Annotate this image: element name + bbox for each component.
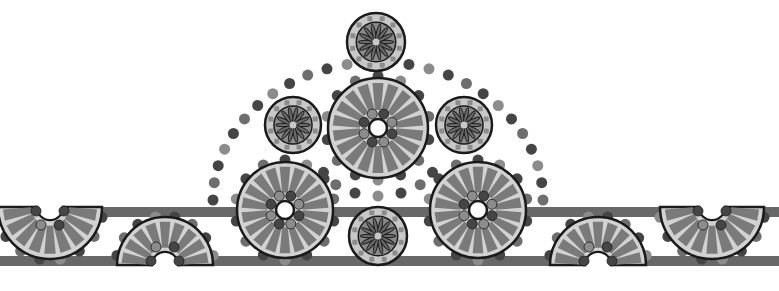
flower-center-icon: [373, 39, 380, 46]
ring-tile: [359, 251, 364, 256]
ring-tile: [297, 100, 302, 105]
arc-dot: [538, 195, 549, 206]
ring-tile: [445, 139, 450, 144]
ring-tile: [445, 106, 450, 111]
arc-dot: [478, 88, 489, 99]
half-wheel-top-right: [655, 195, 770, 265]
half-wheel-bottom-right: [544, 211, 651, 277]
arc-dot: [284, 78, 295, 89]
hub-dot: [607, 256, 617, 266]
arc-dot: [461, 78, 472, 89]
ring-tile: [307, 139, 312, 144]
hub-dot: [31, 206, 41, 216]
ring-tile: [382, 257, 387, 262]
ring-tile: [285, 145, 290, 150]
ring-tile: [380, 63, 385, 68]
flower-center-icon: [375, 233, 382, 240]
rosette-right: [436, 97, 492, 153]
ring-tile: [297, 145, 302, 150]
ring-tile: [285, 100, 290, 105]
hub-dot: [716, 220, 726, 230]
arc-dot: [424, 63, 435, 74]
hub-dot: [294, 211, 304, 221]
hub-dot: [467, 219, 477, 229]
arc-dot: [209, 177, 220, 188]
ring-tile: [397, 46, 402, 51]
hub-dot: [387, 129, 397, 139]
hub-dot: [487, 211, 497, 221]
hub-dot: [459, 199, 469, 209]
hub-dot: [459, 211, 469, 221]
ring-tile: [268, 129, 273, 134]
ring-tile: [274, 139, 279, 144]
arc-dot: [342, 59, 353, 70]
hub-dot: [174, 256, 184, 266]
arc-dot: [443, 70, 454, 81]
ring-tile: [391, 57, 396, 62]
ring-tile: [268, 117, 273, 122]
ring-tile: [367, 63, 372, 68]
ring-tile: [478, 106, 483, 111]
ring-tile: [484, 129, 489, 134]
hub-dot: [467, 191, 477, 201]
rosette-left: [265, 97, 321, 153]
arc-dot: [252, 100, 263, 111]
hub-dot: [274, 191, 284, 201]
hub-dot: [379, 109, 389, 119]
ring-tile: [350, 33, 355, 38]
ring-tile: [484, 117, 489, 122]
hub-dot: [36, 220, 46, 230]
hub-dot: [359, 117, 369, 127]
arc-dot: [228, 128, 239, 139]
arc-dot: [415, 179, 426, 190]
arc-dot: [396, 188, 407, 199]
arc-dot: [517, 128, 528, 139]
arc-dot: [330, 179, 341, 190]
arc-dot: [493, 100, 504, 111]
decorative-frieze: [0, 0, 779, 291]
ring-tile: [357, 57, 362, 62]
arc-dot: [403, 59, 414, 70]
rosette-top: [347, 13, 405, 71]
ring-tile: [274, 106, 279, 111]
ring-tile: [478, 139, 483, 144]
hub-dot: [487, 199, 497, 209]
hub-dot: [286, 219, 296, 229]
arc-dot: [506, 113, 517, 124]
arc-dot: [373, 191, 384, 202]
hub-dot: [367, 109, 377, 119]
hub-dot: [721, 206, 731, 216]
ring-tile: [468, 145, 473, 150]
ring-tile: [350, 46, 355, 51]
hub-icon: [369, 119, 387, 137]
ring-tile: [393, 217, 398, 222]
arc-dot: [322, 63, 333, 74]
rosette-bottom: [349, 207, 407, 265]
hub-dot: [266, 211, 276, 221]
hub-dot: [584, 242, 594, 252]
ring-tile: [399, 240, 404, 245]
ring-tile: [399, 227, 404, 232]
ring-tile: [468, 100, 473, 105]
hub-dot: [379, 137, 389, 147]
ring-tile: [359, 217, 364, 222]
ring-tile: [367, 16, 372, 21]
hub-dot: [266, 199, 276, 209]
arc-dot: [536, 177, 547, 188]
hub-dot: [59, 206, 69, 216]
arc-dot: [302, 70, 313, 81]
hub-dot: [479, 219, 489, 229]
hub-dot: [286, 191, 296, 201]
ring-tile: [391, 23, 396, 28]
hub-dot: [387, 117, 397, 127]
arc-dot: [213, 160, 224, 171]
hub-dot: [479, 191, 489, 201]
ring-tile: [380, 16, 385, 21]
hub-dot: [294, 199, 304, 209]
center-top-wheel: [322, 71, 434, 186]
arc-dot: [208, 195, 219, 206]
hub-dot: [579, 256, 589, 266]
flower-center-icon: [461, 122, 468, 129]
hub-dot: [54, 220, 64, 230]
ring-tile: [307, 106, 312, 111]
